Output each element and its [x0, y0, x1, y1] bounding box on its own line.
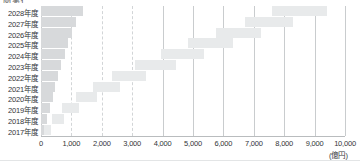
- bar-left-2022年度: [41, 71, 58, 81]
- bar-left-2023年度: [41, 60, 61, 70]
- gridline-10000: [345, 6, 346, 136]
- bar-float-2027年度: [245, 17, 294, 27]
- y-axis-label-2019年度: 2019年度: [0, 104, 38, 115]
- chart-row: [41, 60, 345, 70]
- y-axis-label-2025年度: 2025年度: [0, 39, 38, 50]
- y-axis-label-2021年度: 2021年度: [0, 83, 38, 94]
- x-axis-label-6000: 6,000: [215, 139, 233, 148]
- y-axis-label-2020年度: 2020年度: [0, 93, 38, 104]
- bar-float-2026年度: [216, 28, 262, 38]
- x-axis-label-10000: 10,000: [334, 139, 356, 148]
- chart-row: [41, 38, 345, 48]
- x-axis-label-0: 0: [39, 139, 43, 148]
- bar-float-2019年度: [62, 103, 79, 113]
- bar-float-2023年度: [135, 60, 176, 70]
- x-axis-label-5000: 5,000: [184, 139, 202, 148]
- bottom-divider: [0, 160, 360, 161]
- chart-row: [41, 71, 345, 81]
- bar-float-2021年度: [93, 82, 120, 92]
- chart-title-fragment: 図表1: [3, 0, 25, 3]
- chart-root: 図表1 2028年度2027年度2026年度2025年度2024年度2023年度…: [0, 0, 360, 162]
- y-axis-label-2024年度: 2024年度: [0, 50, 38, 61]
- bar-float-2025年度: [188, 38, 232, 48]
- bar-left-2021年度: [41, 82, 55, 92]
- bar-left-2024年度: [41, 49, 65, 59]
- y-axis-label-2027年度: 2027年度: [0, 18, 38, 29]
- bar-float-2028年度: [272, 6, 327, 16]
- bar-left-2018年度: [41, 114, 47, 124]
- bar-left-2027年度: [41, 17, 76, 27]
- bar-float-2020年度: [76, 92, 97, 102]
- chart-row: [41, 6, 345, 16]
- x-axis-label-7000: 7,000: [245, 139, 263, 148]
- x-axis-label-1000: 1,000: [63, 139, 81, 148]
- x-axis-line: [41, 136, 345, 137]
- x-axis-label-2000: 2,000: [93, 139, 111, 148]
- bar-left-2020年度: [41, 92, 53, 102]
- bar-float-2022年度: [112, 71, 145, 81]
- chart-row: [41, 103, 345, 113]
- bar-left-2025年度: [41, 38, 68, 48]
- y-axis-label-2026年度: 2026年度: [0, 29, 38, 40]
- bar-float-2024年度: [161, 49, 204, 59]
- chart-row: [41, 82, 345, 92]
- chart-row: [41, 114, 345, 124]
- chart-row: [41, 49, 345, 59]
- chart-row: [41, 28, 345, 38]
- y-axis-label-2028年度: 2028年度: [0, 7, 38, 18]
- bar-left-2019年度: [41, 103, 50, 113]
- y-axis-label-2023年度: 2023年度: [0, 61, 38, 72]
- y-axis-label-2018年度: 2018年度: [0, 115, 38, 126]
- bar-float-2017年度: [44, 125, 51, 135]
- bar-left-2028年度: [41, 6, 83, 16]
- y-axis-label-2017年度: 2017年度: [0, 126, 38, 137]
- chart-row: [41, 125, 345, 135]
- bar-left-2026年度: [41, 28, 72, 38]
- axis-unit-label: (億円): [329, 149, 348, 160]
- x-axis-label-4000: 4,000: [154, 139, 172, 148]
- chart-row: [41, 92, 345, 102]
- plot-area: [41, 6, 345, 136]
- x-axis-label-3000: 3,000: [123, 139, 141, 148]
- chart-row: [41, 17, 345, 27]
- x-axis-label-8000: 8,000: [275, 139, 293, 148]
- x-axis-label-9000: 9,000: [306, 139, 324, 148]
- y-axis-label-2022年度: 2022年度: [0, 72, 38, 83]
- bar-float-2018年度: [52, 114, 64, 124]
